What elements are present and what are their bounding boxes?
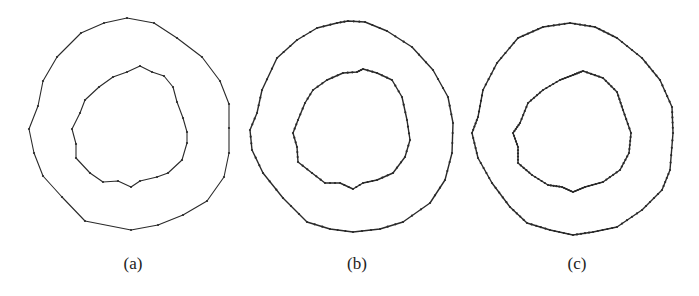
- vertex-dot: [671, 106, 673, 108]
- vertex-dot: [473, 142, 475, 144]
- vertex-dot: [579, 188, 581, 190]
- vertex-dot: [534, 176, 536, 178]
- vertex-dot: [376, 72, 378, 74]
- vertex-dot: [565, 188, 567, 190]
- vertex-dot: [206, 200, 208, 202]
- vertex-dot: [261, 89, 263, 91]
- vertex-dot: [75, 143, 77, 145]
- vertex-dot: [75, 157, 77, 159]
- vertex-dot: [262, 172, 264, 174]
- vertex-dot: [664, 90, 666, 92]
- vertex-dot: [98, 86, 100, 88]
- vertex-dot: [621, 223, 623, 225]
- vertex-dot: [446, 170, 448, 172]
- vertex-dot: [326, 79, 328, 81]
- vertex-dot: [228, 152, 230, 154]
- vertex-dot: [367, 181, 369, 183]
- vertex-dot: [480, 162, 482, 164]
- vertex-dot: [358, 70, 360, 72]
- vertex-dot: [630, 136, 632, 138]
- vertex-dot: [139, 65, 141, 67]
- vertex-dot: [112, 76, 114, 78]
- vertex-dot: [451, 152, 453, 154]
- vertex-dot: [667, 173, 669, 175]
- vertex-dot: [306, 168, 308, 170]
- vertex-dot: [598, 76, 600, 78]
- vertex-dot: [533, 97, 535, 99]
- vertex-dot: [371, 24, 373, 26]
- vertex-dot: [292, 132, 294, 134]
- vertex-dot: [331, 77, 333, 79]
- vertex-dot: [569, 75, 571, 77]
- vertex-dot: [572, 191, 574, 193]
- vertex-dot: [669, 101, 671, 103]
- vertex-dot: [289, 45, 291, 47]
- vertex-dot: [598, 182, 600, 184]
- vertex-dot: [517, 152, 519, 154]
- vertex-dot: [56, 56, 58, 58]
- vertex-dot: [522, 114, 524, 116]
- vertex-dot: [564, 23, 566, 25]
- vertex-dot: [522, 35, 524, 37]
- vertex-dot: [485, 84, 487, 86]
- vertex-dot: [610, 85, 612, 87]
- panel-c: [471, 22, 674, 236]
- vertex-dot: [157, 224, 159, 226]
- vertex-dot: [572, 74, 574, 76]
- vertex-dot: [219, 80, 221, 82]
- vertex-dot: [624, 114, 626, 116]
- vertex-dot: [394, 35, 396, 37]
- vertex-dot: [525, 169, 527, 171]
- vertex-dot: [379, 27, 381, 29]
- vertex-dot: [403, 104, 405, 106]
- vertex-dot: [103, 22, 105, 24]
- vertex-dot: [316, 27, 318, 29]
- vertex-dot: [295, 141, 297, 143]
- vertex-dot: [541, 180, 543, 182]
- vertex-dot: [153, 22, 155, 24]
- vertex-dot: [485, 172, 487, 174]
- contour-figure: [0, 0, 699, 296]
- vertex-dot: [483, 167, 485, 169]
- vertex-dot: [666, 177, 668, 179]
- vertex-dot: [521, 118, 523, 120]
- vertex-dot: [315, 175, 317, 177]
- vertex-dot: [517, 156, 519, 158]
- vertex-dot: [512, 132, 514, 134]
- vertex-dot: [544, 228, 546, 230]
- vertex-dot: [602, 229, 604, 231]
- outer-contour: [250, 21, 453, 232]
- vertex-dot: [411, 46, 413, 48]
- vertex-dot: [342, 72, 344, 74]
- vertex-dot: [669, 169, 671, 171]
- vertex-dot: [475, 122, 477, 124]
- vertex-dot: [309, 31, 311, 33]
- panel-a: [28, 17, 230, 231]
- vertex-dot: [664, 181, 666, 183]
- vertex-dot: [452, 132, 454, 134]
- vertex-dot: [156, 176, 158, 178]
- vertex-dot: [628, 152, 630, 154]
- vertex-dot: [577, 189, 579, 191]
- vertex-dot: [611, 227, 613, 229]
- vertex-dot: [432, 69, 434, 71]
- vertex-dot: [572, 234, 574, 236]
- vertex-dot: [176, 37, 178, 39]
- vertex-dot: [447, 96, 449, 98]
- vertex-dot: [568, 189, 570, 191]
- vertex-dot: [84, 99, 86, 101]
- vertex-dot: [102, 181, 104, 183]
- vertex-dot: [657, 193, 659, 195]
- outer-contour: [472, 23, 673, 235]
- vertex-dot: [307, 98, 309, 100]
- vertex-dot: [406, 119, 408, 121]
- vertex-dot: [186, 142, 188, 144]
- vertex-dot: [524, 110, 526, 112]
- vertex-dot: [425, 61, 427, 63]
- vertex-dot: [258, 164, 260, 166]
- vertex-dot: [574, 73, 576, 75]
- vertex-dot: [493, 67, 495, 69]
- vertex-dot: [672, 127, 674, 129]
- vertex-dot: [619, 169, 621, 171]
- vertex-dot: [126, 71, 128, 73]
